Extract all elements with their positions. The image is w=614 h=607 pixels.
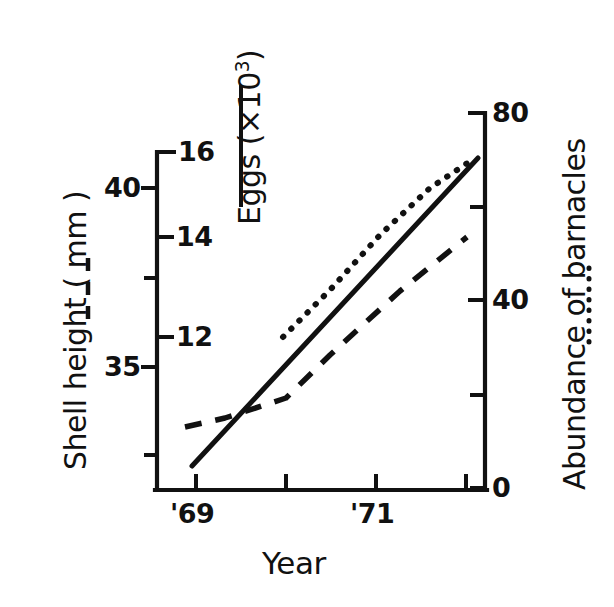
tick-label-year-71: '71 <box>350 498 394 529</box>
y-axis-title-shell-height: Shell height ( mm ) <box>58 191 93 470</box>
tick-label-barnacles-0: 0 <box>492 472 510 503</box>
series-shell-height-dashed <box>185 237 467 427</box>
tick-label-shell-40: 40 <box>104 172 141 203</box>
tick-label-eggs-16: 16 <box>178 136 215 167</box>
y-axis-title-barnacles: Abundance of barnacles <box>557 138 592 490</box>
figure-root: 40 35 16 14 12 80 40 0 '69 '71 Shell hei… <box>0 0 614 607</box>
eggs-title-paren: ) <box>232 50 267 61</box>
tick-label-eggs-14: 14 <box>176 221 213 252</box>
eggs-title-text: Eggs (×10 <box>232 72 267 225</box>
tick-label-eggs-12: 12 <box>176 321 213 352</box>
tick-label-year-69: '69 <box>170 498 214 529</box>
x-axis-ticks <box>196 474 466 490</box>
x-axis-title-year: Year <box>262 545 326 581</box>
left-outer-ticks <box>141 188 157 455</box>
tick-label-shell-35: 35 <box>104 351 141 382</box>
tick-label-barnacles-40: 40 <box>492 284 529 315</box>
eggs-title-exponent: 3 <box>232 61 253 72</box>
y-axis-title-eggs: Eggs (×103) <box>232 50 267 225</box>
left-inner-ticks <box>157 152 176 337</box>
tick-label-barnacles-80: 80 <box>492 97 529 128</box>
